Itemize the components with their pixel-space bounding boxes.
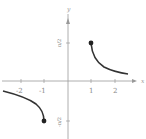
x-axis-arrow [132, 79, 137, 83]
x-tick-label: -2 [16, 87, 23, 95]
y-tick-label-neg-pi-over-2: -π/2 [56, 117, 62, 127]
x-axis-label: x [141, 77, 145, 84]
closed-point-left [42, 119, 47, 124]
y-axis-arrow [66, 18, 70, 24]
y-axis-label: y [66, 5, 71, 13]
curve-left-branch [3, 91, 44, 121]
closed-point-right [89, 41, 94, 46]
x-tick-label: -1 [39, 87, 46, 95]
curve-right-branch [91, 43, 128, 74]
x-tick-label: 2 [113, 87, 117, 95]
x-tick-label: 1 [89, 87, 93, 95]
graph: x y -2 -1 1 2 π/2 -π/2 [0, 0, 146, 139]
y-tick-label-pi-over-2: π/2 [56, 39, 62, 47]
